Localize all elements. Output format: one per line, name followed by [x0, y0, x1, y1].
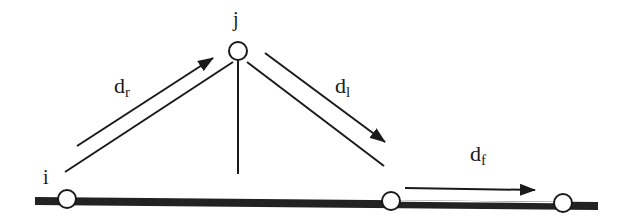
- node-j: [229, 42, 247, 60]
- label-dl: dl: [335, 73, 350, 100]
- baseline-road: [35, 197, 598, 210]
- arrow-df: [405, 188, 535, 190]
- node-end: [554, 194, 572, 212]
- link-i-j: [65, 62, 233, 172]
- node-mid: [382, 192, 400, 210]
- label-dr-sub: r: [125, 84, 130, 100]
- arrow-dr: [77, 58, 213, 146]
- link-j-descend: [247, 62, 384, 166]
- label-df: df: [470, 141, 486, 168]
- label-dr: dr: [114, 73, 130, 100]
- label-dl-main: d: [335, 73, 346, 98]
- label-df-main: d: [470, 141, 481, 166]
- label-node-j: j: [232, 8, 239, 31]
- label-dl-sub: l: [346, 84, 350, 100]
- label-node-i: i: [43, 166, 49, 188]
- diagram-canvas: i j dr dl df: [0, 0, 631, 222]
- label-dr-main: d: [114, 73, 125, 98]
- label-df-sub: f: [481, 152, 486, 168]
- arrow-dl: [265, 53, 385, 142]
- node-i: [58, 190, 76, 208]
